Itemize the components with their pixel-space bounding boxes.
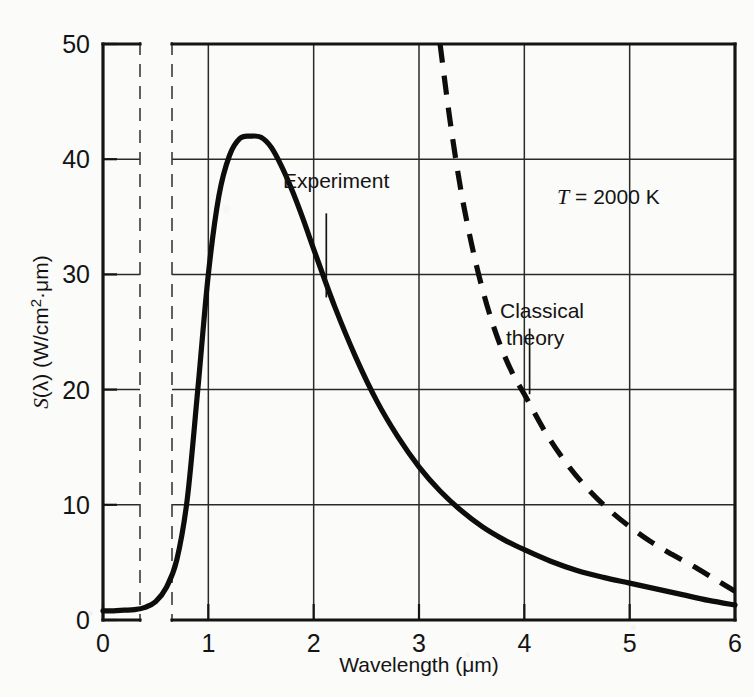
- x-tick-label: 6: [728, 629, 742, 657]
- chart-canvas: 0123456 01020304050 Wavelength (μm) S(λ)…: [0, 0, 754, 697]
- x-tick-label: 0: [96, 629, 110, 657]
- y-tick-label: 20: [62, 376, 90, 404]
- y-axis-title: S(λ) (W/cm2·μm): [27, 255, 53, 408]
- x-axis-title-mu: μ: [462, 653, 474, 676]
- x-axis-title: Wavelength (μm): [339, 653, 499, 676]
- y-tick-label: 30: [62, 260, 90, 288]
- classical-theory-label-line1: Classical: [500, 299, 584, 322]
- y-tick-label: 50: [62, 30, 90, 58]
- y-axis-title-units-end: m): [29, 255, 52, 280]
- y-axis-title-mu: μ: [29, 280, 52, 292]
- x-tick-label: 4: [517, 629, 531, 657]
- temperature-label: T = 2000 K: [557, 184, 660, 209]
- y-axis-title-lambda: (λ): [29, 374, 52, 399]
- y-axis-title-units-post: ·: [29, 292, 52, 299]
- y-tick-label: 0: [76, 606, 90, 634]
- blackbody-spectrum-figure: 0123456 01020304050 Wavelength (μm) S(λ)…: [0, 0, 754, 697]
- temperature-value: = 2000 K: [569, 185, 660, 208]
- x-tick-label: 5: [623, 629, 637, 657]
- y-tick-label: 10: [62, 491, 90, 519]
- x-axis-title-name: Wavelength (: [339, 653, 462, 676]
- experiment-label: Experiment: [283, 169, 389, 192]
- y-axis-title-units-pre: (W/cm: [29, 307, 52, 373]
- y-axis-title-exponent: 2: [27, 299, 44, 307]
- x-tick-label: 2: [307, 629, 321, 657]
- y-tick-label: 40: [62, 145, 90, 173]
- x-tick-label: 1: [201, 629, 215, 657]
- classical-theory-label-line2: theory: [506, 326, 565, 349]
- x-axis-title-unit: m): [474, 653, 499, 676]
- y-axis-title-symbol: S: [29, 398, 53, 409]
- figure-background: [0, 0, 754, 697]
